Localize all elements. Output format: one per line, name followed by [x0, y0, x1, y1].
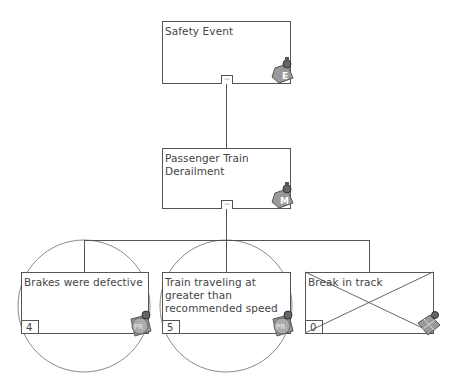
node-label: Passenger Train Derailment	[165, 152, 286, 178]
event-type-crossed-icon	[416, 309, 442, 337]
event-type-pr-icon: PR	[127, 309, 153, 337]
node-label: Break in track	[308, 276, 429, 289]
svg-text:PR: PR	[276, 323, 285, 331]
node-safety-event[interactable]: Safety Event -- E	[162, 21, 291, 84]
child-count: 0	[305, 320, 323, 334]
node-label: Train traveling at greater than recommen…	[165, 276, 286, 315]
event-type-pr-icon: PR	[269, 309, 295, 337]
node-passenger-train-derailment[interactable]: Passenger Train Derailment -- M	[162, 148, 291, 209]
node-train-speed[interactable]: Train traveling at greater than recommen…	[162, 272, 291, 334]
event-type-e-icon: E	[269, 56, 295, 84]
collapse-toggle[interactable]: --	[221, 200, 233, 209]
svg-text:M: M	[280, 196, 289, 206]
node-brakes-defective[interactable]: Brakes were defective 4 PR	[21, 272, 149, 334]
svg-text:E: E	[282, 71, 288, 81]
node-label: Safety Event	[165, 25, 286, 38]
node-break-in-track[interactable]: Break in track 0	[305, 272, 434, 334]
node-label: Brakes were defective	[24, 276, 144, 289]
child-count: 4	[21, 320, 39, 334]
collapse-toggle[interactable]: --	[221, 75, 233, 84]
event-type-m-icon: M	[269, 181, 295, 209]
svg-text:PR: PR	[134, 323, 143, 331]
child-count: 5	[162, 320, 180, 334]
